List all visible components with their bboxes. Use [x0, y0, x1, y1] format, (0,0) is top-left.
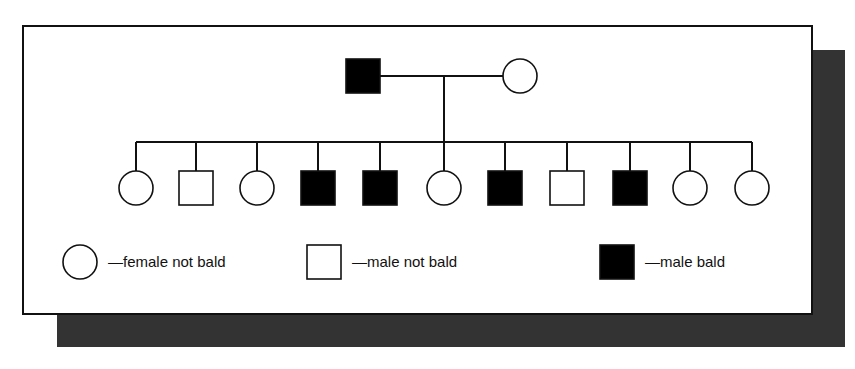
legend-label-female-not-bald: —female not bald: [108, 254, 226, 269]
individual-ii-1-female-unaffected: [119, 171, 153, 205]
individual-ii-7-male-affected: [488, 171, 522, 205]
connector-lines-layer: [136, 76, 752, 171]
legend-label-male-not-bald: —male not bald: [352, 254, 457, 269]
individual-ii-6-female-unaffected: [427, 171, 461, 205]
pedigree-drawing: [0, 0, 855, 369]
individual-ii-11-female-unaffected: [735, 171, 769, 205]
individual-ii-4-male-affected: [301, 171, 335, 205]
individual-ii-3-female-unaffected: [240, 171, 274, 205]
individual-i-2-female-unaffected: [503, 59, 537, 93]
legend-symbol-square-filled: [600, 245, 634, 279]
individual-ii-2-male-unaffected: [179, 171, 213, 205]
legend-symbol-square-open: [307, 245, 341, 279]
legend-label-male-bald: —male bald: [645, 254, 725, 269]
individual-ii-10-female-unaffected: [673, 171, 707, 205]
individual-ii-8-male-unaffected: [550, 171, 584, 205]
individual-ii-5-male-affected: [363, 171, 397, 205]
individual-ii-9-male-affected: [613, 171, 647, 205]
individual-i-1-male-affected: [346, 59, 380, 93]
pedigree-figure: —female not bald —male not bald —male ba…: [0, 0, 855, 369]
legend-symbol-circle-open: [63, 245, 97, 279]
